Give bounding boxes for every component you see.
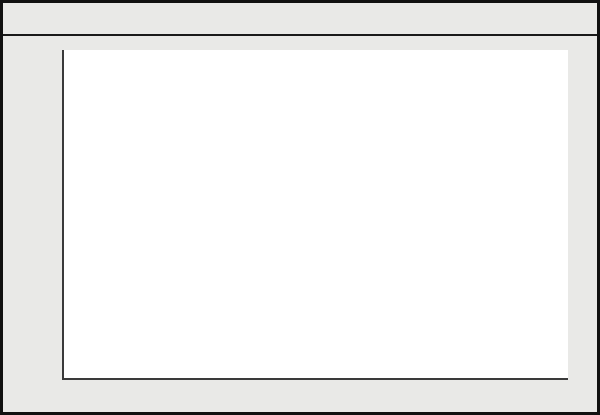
plot-area — [62, 50, 568, 380]
area-series-breastfed-percentage — [64, 50, 568, 378]
plot-wrapper — [0, 0, 600, 415]
chart-page — [0, 0, 600, 415]
